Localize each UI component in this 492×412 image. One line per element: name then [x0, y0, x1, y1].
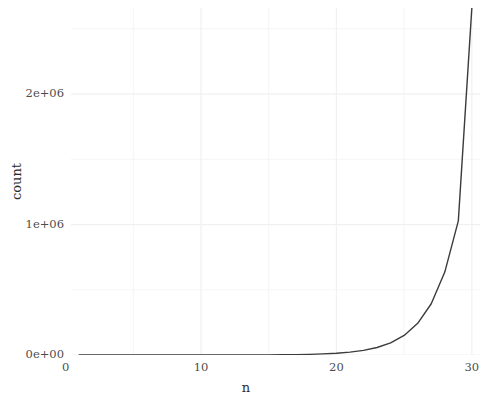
- plot-area-svg: [71, 8, 480, 355]
- gridlines-major-horizontal: [71, 94, 480, 355]
- x-axis-title: n: [0, 381, 492, 394]
- y-axis-tick-label: 2e+06: [26, 88, 64, 100]
- y-axis-tick-label: 0e+00: [26, 349, 64, 361]
- x-axis-tick-labels: 0102030: [0, 362, 492, 382]
- plot-panel: [71, 8, 480, 355]
- x-axis-title-text: n: [242, 380, 250, 395]
- gridlines-major-vertical: [71, 8, 472, 355]
- x-axis-tick-label: 20: [329, 362, 344, 374]
- y-axis-tick-label: 1e+06: [26, 219, 64, 231]
- gridlines-minor-vertical: [133, 8, 404, 355]
- chart-figure: count 0e+001e+062e+06 0102030 n: [0, 0, 492, 412]
- y-axis-tick-labels: 0e+001e+062e+06: [0, 0, 64, 412]
- gridlines-minor-horizontal: [71, 29, 480, 290]
- data-line-count: [79, 8, 472, 355]
- x-axis-tick-label: 0: [62, 362, 69, 374]
- x-axis-tick-label: 10: [194, 362, 209, 374]
- x-axis-tick-label: 30: [465, 362, 480, 374]
